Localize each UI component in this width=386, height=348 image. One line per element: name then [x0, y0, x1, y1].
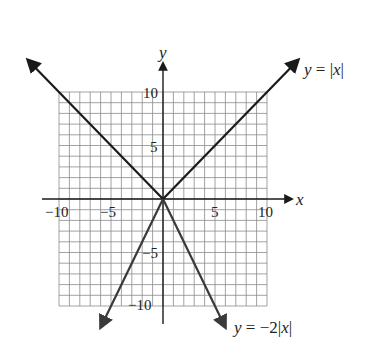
x-tick-label-neg5: −5 [100, 205, 116, 220]
series-line-right [163, 60, 298, 199]
y-tick-label-5: 5 [150, 140, 158, 155]
equation-label-neg2-abs-x: y = −2|x| [234, 319, 292, 336]
eq1-end: | [341, 60, 344, 79]
eq2-mid: = −2| [242, 318, 282, 337]
y-axis-label: y [159, 44, 167, 61]
y-tick-label-neg10: −10 [128, 298, 151, 313]
y-tick-label-neg5: −5 [142, 246, 158, 261]
x-tick-label-neg10: −10 [45, 205, 68, 220]
y-tick-label-10: 10 [143, 86, 158, 101]
eq2-x: x [281, 318, 289, 337]
eq2-y: y [234, 318, 242, 337]
eq2-end: | [289, 318, 292, 337]
x-axis-label: x [296, 191, 304, 208]
x-tick-label-10: 10 [258, 205, 273, 220]
eq1-y: y [304, 60, 312, 79]
eq1-mid: = | [312, 60, 334, 79]
eq1-x: x [333, 60, 341, 79]
chart-canvas [0, 0, 386, 348]
series-line-left [28, 60, 163, 199]
x-tick-label-5: 5 [211, 205, 219, 220]
equation-label-abs-x: y = |x| [304, 61, 344, 78]
